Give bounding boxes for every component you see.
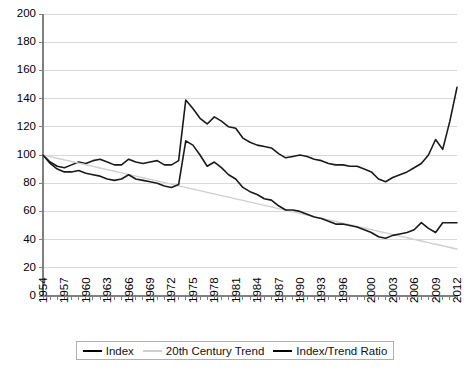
x-axis-tick-label: 1966: [123, 277, 135, 303]
x-axis-tick-label: 1996: [337, 277, 349, 303]
legend-entry-trend: 20th Century Trend: [143, 345, 264, 357]
series-line-index: [43, 87, 457, 181]
x-axis-tick-label: 1963: [101, 277, 113, 303]
legend-label-trend: 20th Century Trend: [166, 345, 264, 357]
x-axis-tick-label: 1993: [315, 277, 327, 303]
x-axis-tick-label: 2006: [408, 277, 420, 303]
legend-swatch-index-icon: [83, 350, 102, 352]
x-axis-tick-label: 1972: [165, 277, 177, 303]
x-axis-tick-label: 1984: [251, 277, 263, 303]
x-axis-tick-label: 2009: [430, 277, 442, 303]
chart-legend: Index 20th Century Trend Index/Trend Rat…: [76, 341, 394, 360]
y-axis-tick-label: 120: [17, 120, 36, 132]
x-axis-tick-label: 1969: [144, 277, 156, 303]
y-axis-tick-label: 140: [17, 92, 36, 104]
x-axis-tick-label: 1987: [273, 277, 285, 303]
y-axis-tick-label: 0: [30, 289, 36, 301]
y-axis-tick-label: 80: [23, 176, 36, 188]
x-axis-tick-label: 2012: [451, 277, 463, 303]
legend-entry-ratio: Index/Trend Ratio: [273, 345, 387, 357]
line-chart: 0204060801001201401601802001954195719601…: [0, 0, 470, 372]
y-axis-tick-label: 100: [17, 148, 36, 160]
legend-label-index: Index: [106, 345, 134, 357]
legend-swatch-ratio-icon: [273, 350, 292, 352]
y-axis-tick-label: 180: [17, 35, 36, 47]
y-axis-tick-label: 160: [17, 63, 36, 75]
x-axis-tick-label: 1957: [58, 277, 70, 303]
legend-swatch-trend-icon: [143, 350, 162, 352]
x-axis-tick-label: 1981: [230, 277, 242, 303]
x-axis-tick-label: 1978: [208, 277, 220, 303]
x-axis-tick-label: 2000: [365, 277, 377, 303]
x-axis-tick-label: 1975: [187, 277, 199, 303]
chart-container: 0204060801001201401601802001954195719601…: [0, 0, 470, 372]
x-axis-tick-label: 1954: [37, 277, 49, 303]
x-axis-tick-label: 2003: [387, 277, 399, 303]
y-axis-tick-label: 40: [23, 233, 36, 245]
legend-entry-index: Index: [83, 345, 134, 357]
x-axis-tick-label: 1990: [294, 277, 306, 303]
y-axis-tick-label: 60: [23, 204, 36, 216]
y-axis-tick-label: 20: [23, 261, 36, 273]
x-axis-tick-label: 1960: [80, 277, 92, 303]
legend-label-ratio: Index/Trend Ratio: [296, 345, 387, 357]
y-axis-tick-label: 200: [17, 7, 36, 19]
